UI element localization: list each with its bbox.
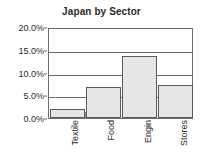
- y-tick-mark: [44, 96, 47, 97]
- y-tick-mark: [44, 28, 47, 29]
- y-tick-label: 10.0%: [0, 69, 44, 79]
- chart-title: Japan by Sector: [0, 6, 203, 17]
- gridline: [49, 75, 192, 76]
- bar-engin: [122, 56, 157, 118]
- y-tick-label: 5.0%: [0, 91, 44, 101]
- y-tick-mark: [44, 119, 47, 120]
- x-tick-label-stores: Stores: [179, 120, 189, 164]
- y-tick-label: 15.0%: [0, 46, 44, 56]
- bar-chart: Japan by Sector 0.0%5.0%10.0%15.0%20.0% …: [0, 0, 203, 167]
- y-tick-mark: [44, 73, 47, 74]
- bar-stores: [158, 85, 193, 118]
- x-tick-label-food: Food: [106, 120, 116, 164]
- y-axis: 0.0%5.0%10.0%15.0%20.0%: [0, 28, 44, 119]
- x-axis: TextileFoodEnginStores: [48, 120, 193, 167]
- y-tick-mark: [44, 50, 47, 51]
- y-tick-label: 20.0%: [0, 23, 44, 33]
- x-tick-label-engin: Engin: [143, 120, 153, 164]
- bar-food: [86, 87, 121, 118]
- gridline: [49, 52, 192, 53]
- plot-area: [48, 28, 193, 119]
- bar-textile: [50, 109, 85, 118]
- y-tick-label: 0.0%: [0, 114, 44, 124]
- x-tick-label-textile: Textile: [70, 120, 80, 164]
